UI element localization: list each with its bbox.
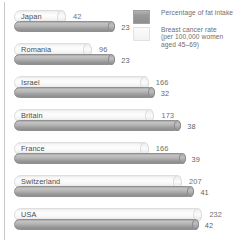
value-label-breast-cancer-rate: 232: [209, 210, 222, 219]
legend-line: (per 100,000 women: [161, 33, 246, 41]
category-label: Romania: [21, 45, 51, 54]
category-label: USA: [21, 210, 37, 219]
bar-fat-intake: [14, 186, 194, 197]
category-label: France: [21, 144, 45, 153]
value-label-breast-cancer-rate: 207: [189, 177, 202, 186]
category-label: Israel: [21, 78, 40, 87]
value-label-fat-intake: 39: [192, 155, 200, 164]
category-label: Britain: [21, 111, 43, 120]
value-label-breast-cancer-rate: 96: [99, 45, 107, 54]
value-label-fat-intake: 41: [200, 188, 208, 197]
bar-fat-intake: [14, 153, 186, 164]
bar-fat-intake: [14, 87, 155, 98]
value-label-breast-cancer-rate: 42: [73, 12, 81, 21]
legend-item-fat-intake: Percentage of fat intake: [133, 9, 246, 17]
category-label: Japan: [21, 12, 42, 21]
category-label: Switzerland: [21, 177, 60, 186]
legend-label-breast-cancer-rate: Breast cancer rate (per 100,000 women ag…: [161, 26, 246, 49]
legend-line: aged 45–69): [161, 41, 246, 49]
legend-line: Percentage of fat intake: [161, 9, 246, 17]
value-label-fat-intake: 23: [121, 56, 129, 65]
legend-label-fat-intake: Percentage of fat intake: [161, 9, 246, 17]
legend-swatch-breast-cancer-rate: [133, 27, 150, 41]
chart-legend: Percentage of fat intake Breast cancer r…: [133, 9, 246, 57]
value-label-breast-cancer-rate: 166: [156, 144, 169, 153]
fat-intake-breast-cancer-chart: Percentage of fat intake Breast cancer r…: [0, 0, 246, 250]
value-label-breast-cancer-rate: 173: [161, 111, 174, 120]
value-label-fat-intake: 32: [161, 89, 169, 98]
bar-fat-intake: [14, 120, 181, 131]
bar-fat-intake: [14, 219, 199, 230]
value-label-fat-intake: 42: [205, 221, 213, 230]
value-label-fat-intake: 38: [187, 122, 195, 131]
legend-swatch-fat-intake: [133, 10, 150, 24]
value-label-breast-cancer-rate: 166: [156, 78, 169, 87]
bar-fat-intake: [14, 54, 115, 65]
bar-fat-intake: [14, 21, 115, 32]
legend-item-breast-cancer-rate: Breast cancer rate (per 100,000 women ag…: [133, 26, 246, 49]
value-label-fat-intake: 23: [121, 23, 129, 32]
legend-line: Breast cancer rate: [161, 26, 246, 34]
left-border-rule: [4, 2, 5, 240]
